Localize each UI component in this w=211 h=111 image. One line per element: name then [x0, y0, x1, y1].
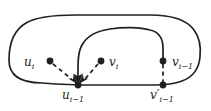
label-subscript: i−1: [179, 62, 193, 71]
edge-vi-uim1: [85, 64, 98, 79]
label-subscript: i−1: [160, 95, 174, 104]
node-v-prime-i-minus-1: [160, 82, 167, 89]
label-base: u: [62, 88, 70, 102]
node-label-u-i-minus-1: ui−1: [62, 89, 84, 101]
node-label-v-i-minus-1: vi−1: [172, 56, 193, 68]
edge-ui-uim1: [53, 64, 72, 79]
label-base: u: [24, 55, 32, 69]
node-v-i-minus-1: [160, 58, 167, 65]
label-base: v: [109, 55, 116, 69]
node-label-v-i: vi: [109, 56, 118, 68]
outer-loop-path: [9, 15, 200, 85]
node-v-i: [98, 58, 105, 65]
node-u-i: [47, 58, 54, 65]
node-label-u-i: ui: [24, 56, 34, 68]
node-u-i-minus-1: [75, 82, 82, 89]
label-base: v: [150, 88, 157, 102]
node-label-v-prime-i-minus-1: v′i−1: [150, 89, 174, 101]
label-subscript: i: [32, 62, 35, 71]
graph-figure: ui vi vi−1 ui−1 v′i−1: [0, 0, 211, 111]
inner-arc-path: [78, 28, 163, 77]
label-base: v: [172, 55, 179, 69]
label-subscript: i: [116, 62, 119, 71]
label-subscript: i−1: [70, 95, 84, 104]
